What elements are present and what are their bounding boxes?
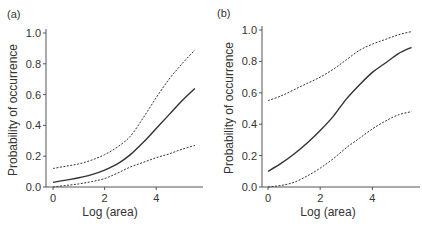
panel-label-b: (b) [217, 7, 230, 19]
y-tick-label: 0.4 [26, 119, 41, 131]
y-tick-label: 0.2 [26, 150, 41, 162]
x-tick-label: 0 [265, 192, 271, 204]
y-tick-label: 0.6 [242, 87, 257, 99]
fitted-curve [53, 88, 195, 182]
panel-label-a: (a) [7, 8, 20, 20]
y-tick-label: 0.6 [26, 89, 41, 101]
y-axis-title-a: Probability of occurrence [6, 44, 20, 176]
y-tick-label: 0.2 [242, 150, 257, 162]
y-tick-label: 0.4 [242, 118, 257, 130]
x-tick-label: 0 [50, 192, 56, 204]
panel-b: (b) 0.00.20.40.60.81.0024 Log (area) Pro… [217, 7, 420, 219]
axes-a: 0.00.20.40.60.81.0024 [26, 27, 203, 204]
y-tick-label: 1.0 [26, 27, 41, 39]
y-tick-label: 0.0 [242, 181, 257, 193]
y-tick-label: 0.0 [26, 181, 41, 193]
figure: (a) 0.00.20.40.60.81.0024 Log (area) Pro… [0, 0, 422, 230]
x-axis-title-a: Log (area) [82, 205, 137, 219]
confidence-interval-curve [268, 112, 412, 187]
x-tick-label: 4 [153, 192, 159, 204]
y-tick-label: 1.0 [242, 24, 257, 36]
panel-a: (a) 0.00.20.40.60.81.0024 Log (area) Pro… [6, 8, 203, 219]
x-axis-title-b: Log (area) [300, 205, 355, 219]
x-tick-label: 2 [317, 192, 323, 204]
axes-b: 0.00.20.40.60.81.0024 [242, 24, 420, 204]
y-axis-title-b: Probability of occurrence [222, 42, 236, 174]
x-tick-label: 4 [369, 192, 375, 204]
y-tick-label: 0.8 [242, 55, 257, 67]
y-tick-label: 0.8 [26, 58, 41, 70]
confidence-interval-curve [53, 145, 195, 187]
x-tick-label: 2 [102, 192, 108, 204]
confidence-interval-curve [268, 32, 412, 101]
